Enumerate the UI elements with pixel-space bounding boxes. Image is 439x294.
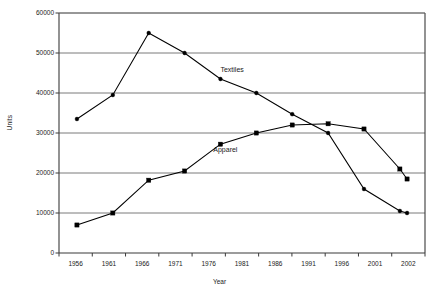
gridlines — [59, 13, 425, 213]
data-point-apparel-2002 — [405, 177, 409, 181]
data-point-apparel-1956 — [75, 223, 79, 227]
data-point-apparel-1996 — [362, 127, 366, 131]
data-point-apparel-1991 — [326, 122, 330, 126]
data-point-apparel-2001 — [398, 167, 402, 171]
data-point-apparel-1976 — [218, 142, 222, 146]
series-line-apparel — [77, 124, 407, 225]
data-point-textiles-2002 — [405, 211, 409, 215]
line-chart: Units Year 01000020000300004000050000600… — [0, 0, 439, 294]
data-point-apparel-1971 — [182, 169, 186, 173]
data-point-textiles-1996 — [362, 187, 366, 191]
data-point-apparel-1961 — [111, 211, 115, 215]
series-line-textiles — [77, 33, 407, 213]
data-point-textiles-2001 — [398, 209, 402, 213]
data-point-textiles-1961 — [111, 93, 115, 97]
data-point-apparel-1966 — [147, 178, 151, 182]
data-point-textiles-1956 — [75, 117, 79, 121]
data-point-apparel-1986 — [290, 123, 294, 127]
data-point-textiles-1991 — [326, 131, 330, 135]
data-point-textiles-1986 — [290, 112, 294, 116]
plot-area — [0, 0, 439, 294]
data-point-apparel-1981 — [254, 131, 258, 135]
series-markers — [75, 31, 409, 227]
series-lines — [77, 33, 407, 225]
data-point-textiles-1966 — [147, 31, 151, 35]
data-point-textiles-1981 — [254, 91, 258, 95]
data-point-textiles-1971 — [183, 51, 187, 55]
data-point-textiles-1976 — [219, 77, 223, 81]
